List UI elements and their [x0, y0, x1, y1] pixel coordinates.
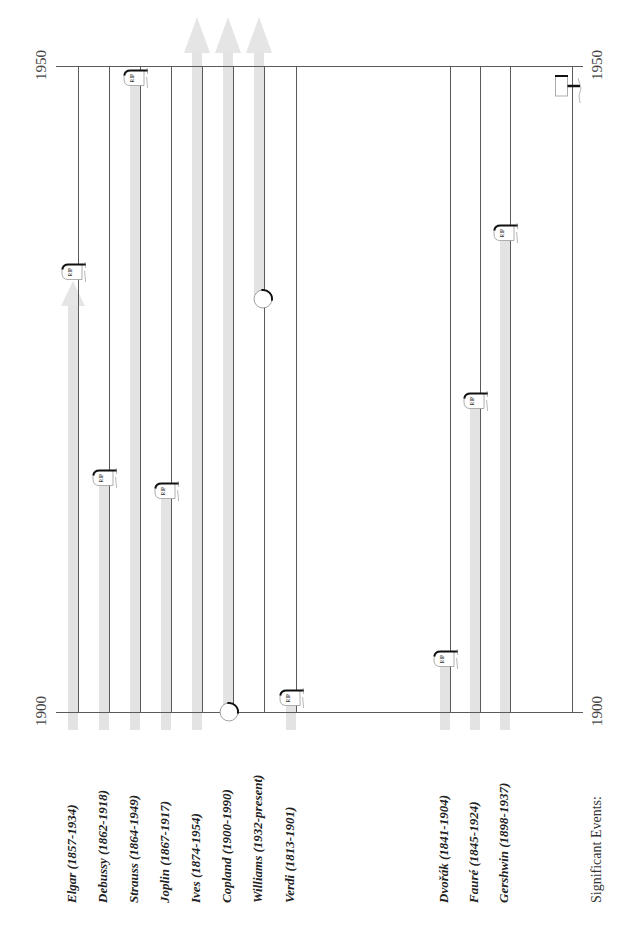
events-label: Significant Events:: [590, 796, 604, 903]
lifeline: [140, 66, 141, 712]
year-label-1950-right: 1950: [590, 50, 605, 80]
tombstone-icon: RIP: [60, 262, 88, 282]
tombstone-icon: RIP: [462, 391, 490, 411]
svg-text:RIP: RIP: [285, 694, 291, 703]
lifespan-bar: [223, 53, 233, 712]
year-label-1950-left: 1950: [34, 50, 49, 80]
arrow-up-icon: [215, 17, 241, 53]
svg-text:RIP: RIP: [469, 397, 475, 406]
lifeline: [480, 66, 481, 712]
svg-text:RIP: RIP: [160, 487, 166, 496]
lifespan-bar: [192, 53, 202, 730]
svg-text:RIP: RIP: [499, 229, 505, 238]
composer-label: Verdi (1813-1901): [283, 807, 297, 903]
lifeline: [171, 66, 172, 712]
lifeline: [78, 66, 79, 712]
lifespan-bar: [254, 53, 264, 299]
composer-label: Joplin (1867-1917): [158, 801, 172, 903]
tombstone-icon: RIP: [122, 68, 150, 88]
arrow-up-icon: [61, 281, 85, 306]
svg-text:RIP: RIP: [439, 655, 445, 664]
lifespan-bar: [68, 306, 78, 730]
composer-label: Copland (1900-1990): [220, 789, 234, 903]
composer-label: Gershwin (1898-1937): [497, 783, 511, 903]
composer-label: Williams (1932-present): [251, 775, 265, 903]
tombstone-icon: RIP: [432, 649, 460, 669]
birth-circle-icon: [218, 701, 240, 723]
lifespan-bar: [161, 499, 171, 730]
tombstone-icon: RIP: [278, 688, 306, 708]
lifeline: [202, 66, 203, 712]
year-label-1900-right: 1900: [590, 696, 605, 726]
axis-line-1900: [56, 712, 583, 713]
lifespan-bar: [440, 667, 450, 730]
lifeline: [264, 66, 265, 712]
svg-text:RIP: RIP: [98, 474, 104, 483]
event-marker-icon: [555, 72, 585, 106]
svg-text:RIP: RIP: [129, 74, 135, 83]
arrow-up-icon: [246, 17, 272, 53]
svg-text:RIP: RIP: [67, 268, 73, 277]
lifeline: [296, 66, 297, 712]
composer-label: Elgar (1857-1934): [65, 804, 79, 903]
composer-label: Strauss (1864-1949): [127, 795, 141, 903]
composer-label: Dvořák (1841-1904): [437, 795, 451, 903]
composer-label: Fauré (1845-1924): [467, 802, 481, 903]
lifespan-bar: [500, 241, 510, 730]
year-label-1900-left: 1900: [34, 696, 49, 726]
arrow-up-icon: [184, 17, 210, 53]
lifeline: [450, 66, 451, 712]
lifespan-bar: [99, 486, 109, 730]
lifeline: [233, 66, 234, 712]
tombstone-icon: RIP: [91, 468, 119, 488]
lifespan-bar: [130, 86, 140, 730]
events-line: [572, 66, 573, 712]
axis-line-1950: [56, 66, 583, 67]
tombstone-icon: RIP: [492, 223, 520, 243]
composer-label: Ives (1874-1954): [189, 813, 203, 903]
birth-circle-icon: [252, 288, 274, 310]
tombstone-icon: RIP: [153, 481, 181, 501]
lifespan-bar: [286, 706, 296, 730]
lifeline: [510, 66, 511, 712]
lifespan-bar: [470, 409, 480, 730]
composer-label: Debussy (1862-1918): [96, 790, 110, 903]
lifeline: [109, 66, 110, 712]
